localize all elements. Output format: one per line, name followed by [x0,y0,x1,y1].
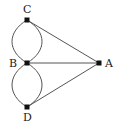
node-c [25,18,30,23]
node-d [25,105,30,110]
node-a [97,61,102,66]
label-b: B [9,57,17,70]
label-a: A [104,57,114,70]
label-d: D [23,111,32,124]
graph-diagram: C B D A [0,0,123,125]
edge-c-a [27,20,99,63]
edge-d-a [27,63,99,107]
edge-b-d-right [27,63,42,107]
label-c: C [23,3,31,16]
node-b [25,61,30,66]
edge-c-b-right [27,20,42,63]
